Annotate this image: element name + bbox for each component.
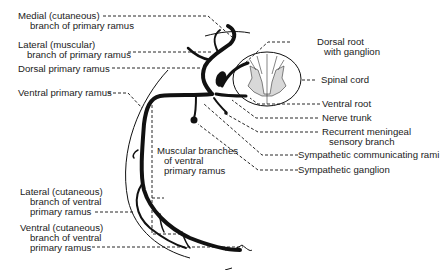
label-spinal-cord: Spinal cord	[321, 75, 369, 85]
label-sympathetic-rami: Sympathetic communicating rami	[298, 150, 439, 160]
label-line: Ventral primary ramus	[18, 88, 112, 98]
label-line: with ganglion	[317, 47, 380, 57]
label-medial-cutaneous-branch: Medial (cutaneous) branch of primary ram…	[18, 11, 134, 31]
label-line: primary ramus	[157, 166, 238, 176]
label-lateral-cutaneous-branch-ventral: Lateral (cutaneous) branch of ventral pr…	[20, 187, 103, 217]
label-ventral-cutaneous-branch-ventral: Ventral (cutaneous) branch of ventral pr…	[20, 223, 103, 253]
label-dorsal-primary-ramus: Dorsal primary ramus	[18, 64, 110, 74]
label-line: Sympathetic communicating rami	[298, 150, 439, 160]
label-line: Sympathetic ganglion	[298, 165, 390, 175]
label-lateral-muscular-branch: Lateral (muscular) branch of primary ram…	[18, 40, 131, 60]
label-sympathetic-ganglion: Sympathetic ganglion	[298, 165, 390, 175]
label-muscular-branches: Muscular branches of ventral primary ram…	[157, 146, 238, 176]
label-ventral-primary-ramus: Ventral primary ramus	[18, 88, 112, 98]
label-line: Spinal cord	[321, 75, 369, 85]
label-line: branch of primary ramus	[18, 50, 131, 60]
label-line: primary ramus	[20, 207, 103, 217]
label-recurrent-meningeal: Recurrent meningeal sensory branch	[322, 127, 411, 147]
label-line: sensory branch	[322, 137, 411, 147]
label-line: Dorsal primary ramus	[18, 64, 110, 74]
label-line: Ventral root	[322, 99, 371, 109]
spinal-cord	[233, 52, 301, 106]
nerve-paths	[133, 26, 248, 250]
label-dorsal-root: Dorsal root with ganglion	[317, 37, 380, 57]
label-ventral-root: Ventral root	[322, 99, 371, 109]
label-nerve-trunk: Nerve trunk	[322, 113, 372, 123]
label-line: primary ramus	[20, 243, 103, 253]
label-line: branch of primary ramus	[18, 21, 134, 31]
label-line: Nerve trunk	[322, 113, 372, 123]
